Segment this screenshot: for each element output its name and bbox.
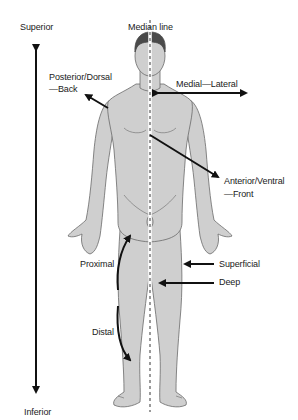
right-leg xyxy=(150,230,186,407)
posterior-arrow xyxy=(86,95,108,108)
anterior-label: Anterior/Ventral xyxy=(224,176,284,187)
inferior-label: Inferior xyxy=(24,407,51,418)
posterior-label: Posterior/Dorsal xyxy=(49,72,112,83)
superficial-label: Superficial xyxy=(219,259,260,270)
distal-label: Distal xyxy=(92,327,114,338)
anatomy-diagram xyxy=(0,0,298,420)
left-leg xyxy=(114,230,150,407)
medial-lateral-label: Medial—Lateral xyxy=(176,79,238,90)
median-line-label: Median line xyxy=(128,22,173,33)
proximal-label: Proximal xyxy=(80,259,114,270)
front-label: —Front xyxy=(224,189,253,200)
deep-label: Deep xyxy=(219,277,240,288)
superior-label: Superior xyxy=(20,22,53,33)
back-label: —Back xyxy=(49,84,78,95)
left-arm xyxy=(68,100,114,254)
